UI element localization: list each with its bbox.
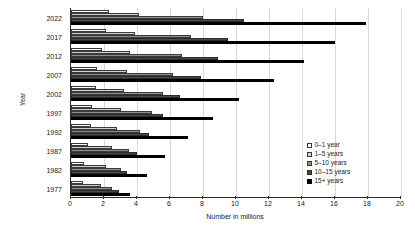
x-tickmark bbox=[301, 196, 302, 199]
y-tick-label: 1987 bbox=[46, 147, 62, 154]
bar-group bbox=[71, 48, 400, 64]
bar-row bbox=[71, 41, 400, 44]
bar-group bbox=[71, 86, 400, 102]
bar-row bbox=[71, 174, 400, 177]
x-tick-label: 14 bbox=[297, 200, 305, 207]
legend-label: 15+ years bbox=[315, 178, 344, 185]
bar bbox=[71, 174, 147, 177]
y-tick-label: 1992 bbox=[46, 128, 62, 135]
x-axis-title: Number in millions bbox=[70, 213, 400, 220]
bar bbox=[71, 22, 366, 25]
bar bbox=[71, 79, 274, 82]
legend-label: 5–10 years bbox=[315, 160, 347, 167]
x-tick-label: 12 bbox=[264, 200, 272, 207]
legend-item[interactable]: 0–1 year bbox=[307, 141, 350, 150]
bar bbox=[71, 98, 239, 101]
legend-label: 0–1 year bbox=[315, 142, 340, 149]
legend-swatch-icon bbox=[307, 179, 312, 184]
bar-group bbox=[71, 124, 400, 140]
legend-item[interactable]: 15+ years bbox=[307, 177, 350, 186]
y-tick-label: 1997 bbox=[46, 109, 62, 116]
bar-group bbox=[71, 162, 400, 178]
x-tick-label: 2 bbox=[101, 200, 105, 207]
bar bbox=[71, 155, 165, 158]
x-tickmark bbox=[103, 196, 104, 199]
y-tick-label: 2022 bbox=[46, 14, 62, 21]
x-tick-label: 0 bbox=[68, 200, 72, 207]
bar-row bbox=[71, 79, 400, 82]
bar-row bbox=[71, 22, 400, 25]
bar-group bbox=[71, 10, 400, 26]
legend-swatch-icon bbox=[307, 152, 312, 157]
x-tickmark bbox=[202, 196, 203, 199]
bar-group bbox=[71, 143, 400, 159]
legend-item[interactable]: 5–10 years bbox=[307, 159, 350, 168]
bar-group bbox=[71, 105, 400, 121]
bar-group bbox=[71, 29, 400, 45]
bar-group bbox=[71, 67, 400, 83]
x-tick-label: 20 bbox=[396, 200, 404, 207]
legend-swatch-icon bbox=[307, 143, 312, 148]
y-tick-label: 1982 bbox=[46, 166, 62, 173]
y-tick-label: 2012 bbox=[46, 52, 62, 59]
bar-row bbox=[71, 60, 400, 63]
x-tick-label: 8 bbox=[200, 200, 204, 207]
x-tick-label: 10 bbox=[231, 200, 239, 207]
y-tick-label: 2002 bbox=[46, 90, 62, 97]
x-tickmark bbox=[169, 196, 170, 199]
gridline bbox=[401, 8, 402, 197]
bar bbox=[71, 193, 130, 196]
legend-item[interactable]: 1–5 years bbox=[307, 150, 350, 159]
x-tick-label: 16 bbox=[330, 200, 338, 207]
bar-group bbox=[71, 181, 400, 197]
bar bbox=[71, 136, 188, 139]
x-tickmark bbox=[400, 196, 401, 199]
bar bbox=[71, 117, 213, 120]
x-tickmark bbox=[334, 196, 335, 199]
x-tick-label: 18 bbox=[363, 200, 371, 207]
legend-swatch-icon bbox=[307, 170, 312, 175]
y-axis-tick-labels: 2022201720122007200219971992198719821977 bbox=[0, 8, 66, 198]
legend-swatch-icon bbox=[307, 161, 312, 166]
x-tick-label: 6 bbox=[167, 200, 171, 207]
bar-groups bbox=[71, 8, 400, 197]
y-tick-label: 2007 bbox=[46, 71, 62, 78]
bar-chart: Year 20222017201220072002199719921987198… bbox=[0, 0, 415, 242]
legend: 0–1 year1–5 years5–10 years10–15 years15… bbox=[307, 141, 350, 186]
bar bbox=[71, 60, 304, 63]
bar bbox=[71, 41, 335, 44]
x-tickmark bbox=[268, 196, 269, 199]
plot-area bbox=[70, 8, 400, 198]
bar-row bbox=[71, 136, 400, 139]
x-tickmark bbox=[367, 196, 368, 199]
x-tickmark bbox=[70, 196, 71, 199]
legend-label: 1–5 years bbox=[315, 151, 344, 158]
legend-item[interactable]: 10–15 years bbox=[307, 168, 350, 177]
y-tick-label: 1977 bbox=[46, 185, 62, 192]
bar-row bbox=[71, 117, 400, 120]
x-tickmark bbox=[235, 196, 236, 199]
bar-row bbox=[71, 98, 400, 101]
legend-label: 10–15 years bbox=[315, 169, 351, 176]
x-tick-label: 4 bbox=[134, 200, 138, 207]
bar-row bbox=[71, 155, 400, 158]
x-axis-tick-labels: 02468101214161820 bbox=[70, 200, 400, 212]
y-tick-label: 2017 bbox=[46, 33, 62, 40]
x-tickmark bbox=[136, 196, 137, 199]
